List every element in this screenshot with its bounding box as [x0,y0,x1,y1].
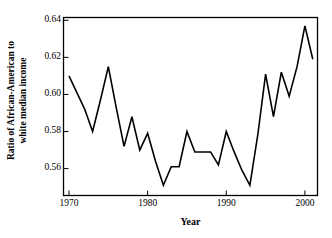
plot-frame [64,18,318,196]
plot-area [0,0,332,238]
x-axis-title: Year [63,216,318,227]
chart-figure: Ratio of African-American to white media… [0,0,332,238]
